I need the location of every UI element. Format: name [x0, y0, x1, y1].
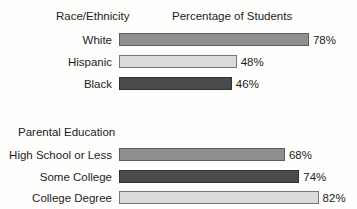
group-title-race-ethnicity: Race/Ethnicity: [56, 10, 130, 22]
value-label-white: 78%: [313, 34, 336, 46]
grouped-horizontal-bar-chart: Race/Ethnicity Percentage of Students Wh…: [0, 0, 357, 209]
category-label-black: Black: [0, 78, 119, 90]
value-label-high-school-or-less: 68%: [289, 149, 312, 161]
bar-row-high-school-or-less: High School or Less 68%: [0, 147, 312, 162]
group-title-parental-education: Parental Education: [18, 126, 115, 138]
bar-black: [119, 77, 232, 90]
bar-some-college: [119, 170, 299, 183]
category-label-white: White: [0, 34, 119, 46]
value-label-college-degree: 82%: [323, 192, 346, 204]
value-label-some-college: 74%: [303, 171, 326, 183]
bar-hispanic: [119, 55, 237, 68]
value-label-black: 46%: [236, 78, 259, 90]
value-label-hispanic: 48%: [241, 56, 264, 68]
bar-row-some-college: Some College 74%: [0, 169, 326, 184]
value-axis-title: Percentage of Students: [172, 10, 292, 22]
category-label-hispanic: Hispanic: [0, 56, 119, 68]
bar-row-white: White 78%: [0, 32, 336, 47]
bar-white: [119, 33, 309, 46]
category-label-college-degree: College Degree: [0, 192, 119, 204]
bar-college-degree: [119, 191, 319, 204]
category-label-some-college: Some College: [0, 171, 119, 183]
bar-row-black: Black 46%: [0, 76, 259, 91]
bar-row-college-degree: College Degree 82%: [0, 190, 346, 205]
bar-high-school-or-less: [119, 148, 285, 161]
category-label-high-school-or-less: High School or Less: [0, 149, 119, 161]
bar-row-hispanic: Hispanic 48%: [0, 54, 264, 69]
